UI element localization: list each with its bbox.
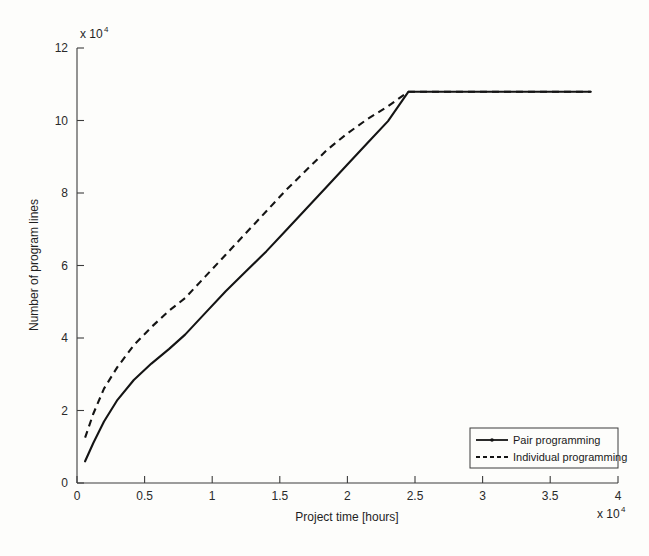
x-tick-label-1: 1 — [209, 489, 216, 503]
y-multiplier-text: x 10 — [80, 27, 103, 41]
y-tick-label-12: 12 — [55, 41, 69, 55]
x-multiplier-text: x 10 — [597, 507, 620, 521]
x-tick-label-35: 3.5 — [542, 489, 559, 503]
series-group — [85, 92, 591, 462]
y-tick-label-8: 8 — [61, 186, 68, 200]
x-tick-label-05: 0.5 — [136, 489, 153, 503]
y-tick-label-4: 4 — [61, 331, 68, 345]
y-tick-label-2: 2 — [61, 404, 68, 418]
x-tick-label-15: 1.5 — [271, 489, 288, 503]
line-chart-canvas: 0 2 4 6 8 10 12 0 0.5 1 1.5 2 2.5 3 3.5 — [0, 0, 649, 556]
chart-figure: 0 2 4 6 8 10 12 0 0.5 1 1.5 2 2.5 3 3.5 — [0, 0, 649, 556]
axes-frame — [77, 48, 618, 483]
x-tick-label-4: 4 — [615, 489, 622, 503]
y-tick-label-10: 10 — [55, 114, 69, 128]
chart-legend[interactable]: Pair programming Individual programming — [470, 428, 627, 468]
series-pair-programming — [85, 92, 591, 462]
legend-label-pair-programming: Pair programming — [513, 434, 600, 446]
legend-label-individual-programming: Individual programming — [513, 451, 627, 463]
x-tick-label-25: 2.5 — [407, 489, 424, 503]
y-tick-label-0: 0 — [61, 476, 68, 490]
y-axis-multiplier: x 10 4 — [80, 25, 109, 41]
legend-marker-pair-programming — [490, 438, 494, 442]
y-axis-ticks: 0 2 4 6 8 10 12 — [55, 41, 84, 490]
y-multiplier-exponent: 4 — [104, 25, 109, 34]
x-axis-ticks: 0 0.5 1 1.5 2 2.5 3 3.5 4 — [74, 476, 622, 503]
y-tick-label-6: 6 — [61, 259, 68, 273]
series-individual-programming — [85, 92, 591, 438]
x-axis-title: Project time [hours] — [295, 510, 398, 524]
x-tick-label-3: 3 — [479, 489, 486, 503]
x-tick-label-0: 0 — [74, 489, 81, 503]
y-axis-title: Number of program lines — [27, 199, 41, 331]
x-tick-label-2: 2 — [344, 489, 351, 503]
x-axis-multiplier: x 10 4 — [597, 505, 626, 521]
x-multiplier-exponent: 4 — [621, 505, 626, 514]
